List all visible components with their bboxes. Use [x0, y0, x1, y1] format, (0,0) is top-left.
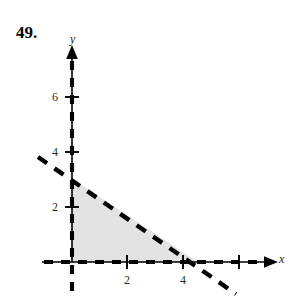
y-axis-label: y — [70, 33, 75, 45]
y-axis-arrowhead — [66, 45, 78, 59]
dashed-boundary-slant-line — [38, 157, 236, 294]
y-tick-label-2: 2 — [44, 201, 58, 213]
y-tick-label-4: 4 — [44, 146, 58, 158]
figure-root: 49. y x 6 4 2 — [0, 0, 300, 306]
x-tick-label-2: 2 — [120, 274, 134, 286]
x-tick-label-4: 4 — [176, 274, 190, 286]
x-axis-arrowhead — [264, 256, 278, 268]
y-tick-label-6: 6 — [44, 91, 58, 103]
x-axis-label: x — [279, 253, 284, 265]
